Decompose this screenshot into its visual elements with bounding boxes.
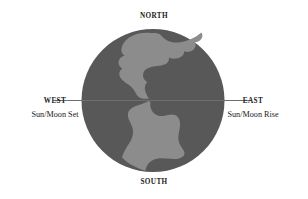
west-label: WEST xyxy=(0,97,110,105)
west-event-label: Sun/Moon Set xyxy=(0,110,110,119)
east-event-label: Sun/Moon Rise xyxy=(198,110,308,119)
earth-horizon-diagram: NORTH SOUTH WEST Sun/Moon Set EAST Sun/M… xyxy=(0,0,308,199)
south-label: SOUTH xyxy=(0,178,308,186)
east-label: EAST xyxy=(198,97,308,105)
north-label: NORTH xyxy=(0,12,308,20)
